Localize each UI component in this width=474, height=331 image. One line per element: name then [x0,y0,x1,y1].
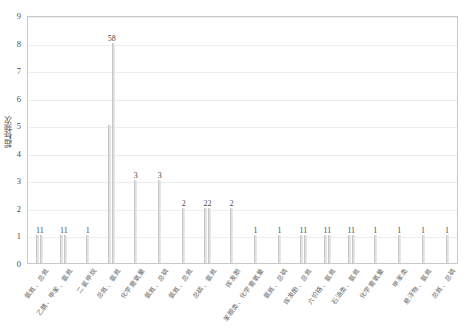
bars-layer: 1111158332222111111111111 [28,17,457,263]
bar[interactable] [64,235,67,263]
bar-value-label: 3 [124,172,148,180]
bar-value-label: 58 [100,35,124,43]
bar[interactable] [374,235,377,263]
y-axis-tick-label: 9 [17,11,21,21]
bar[interactable] [36,235,39,263]
bar-value-label: 11 [291,227,315,235]
y-axis-tick-label: 7 [17,66,21,76]
x-axis-category-label: 挥发酚 [221,266,241,289]
bar[interactable] [112,43,115,263]
bar-group[interactable] [220,17,244,263]
bar[interactable] [324,235,327,263]
bar[interactable] [182,208,185,263]
bar-value-label: 11 [339,227,363,235]
bar-value-label: 2 [220,200,244,208]
bar[interactable] [40,235,43,263]
bar[interactable] [278,235,281,263]
bar-group[interactable] [124,17,148,263]
bar-chart: 超标频次 0123456789 111115833222211111111111… [0,0,474,331]
x-axis-category-label: 二氯甲烷 [74,266,98,295]
bar-value-label: 1 [435,227,459,235]
bar[interactable] [230,208,233,263]
y-axis-tick-label: 6 [17,94,21,104]
y-axis-tick-label: 4 [17,149,21,159]
bar[interactable] [304,235,307,263]
bar-group[interactable] [100,17,124,263]
y-axis-tick-label: 1 [17,231,21,241]
bar-value-label: 1 [244,227,268,235]
bar-group[interactable] [172,17,196,263]
bar[interactable] [398,235,401,263]
bar[interactable] [254,235,257,263]
y-axis-tick-label: 5 [17,121,21,131]
y-axis-tick-label: 3 [17,176,21,186]
bar[interactable] [352,235,355,263]
bar-group[interactable] [148,17,172,263]
y-axis-tick-label: 0 [17,259,21,269]
bar[interactable] [300,235,303,263]
bar-value-label: 11 [315,227,339,235]
bar[interactable] [134,180,137,263]
x-axis-category-label: 甲苯类 [389,266,409,289]
bar[interactable] [446,235,449,263]
bar[interactable] [86,235,89,263]
y-axis-tick-label: 8 [17,39,21,49]
bar[interactable] [158,180,161,263]
bar[interactable] [348,235,351,263]
y-axis-tick-labels: 0123456789 [0,0,26,331]
bar-value-label: 3 [148,172,172,180]
bar[interactable] [60,235,63,263]
bar[interactable] [422,235,425,263]
y-axis-tick-label: 2 [17,204,21,214]
plot-area: 1111158332222111111111111 [27,16,458,264]
bar-value-label: 2 [172,200,196,208]
bar-value-label: 1 [267,227,291,235]
bar-value-label: 22 [196,200,220,208]
bar-value-label: 1 [387,227,411,235]
bar[interactable] [208,208,211,263]
bar-group[interactable] [196,17,220,263]
bar-value-label: 1 [411,227,435,235]
bar[interactable] [328,235,331,263]
bar-value-label: 11 [28,227,52,235]
bar-value-label: 11 [52,227,76,235]
bar[interactable] [108,125,111,263]
x-axis-category-labels: 氨氮、总氮乙腈、甲苯、氨氮二氯甲烷总氮、氨氮化学需氧量氨氮、总磷氨氮、总氮总磷、… [27,266,458,331]
bar[interactable] [204,208,207,263]
bar-value-label: 1 [363,227,387,235]
bar-value-label: 1 [76,227,100,235]
